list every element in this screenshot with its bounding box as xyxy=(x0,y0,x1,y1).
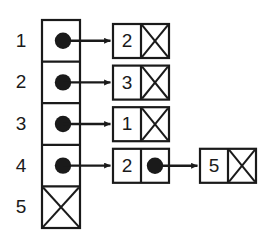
node-value-row4-0: 2 xyxy=(113,156,141,175)
index-label-4: 4 xyxy=(10,156,32,175)
node-value-row3-0: 1 xyxy=(113,114,141,133)
index-label-2: 2 xyxy=(10,72,32,91)
index-label-3: 3 xyxy=(10,114,32,133)
node-value-row4-1: 5 xyxy=(200,156,228,175)
node-value-row2-0: 3 xyxy=(113,73,141,92)
index-label-5: 5 xyxy=(10,197,32,216)
diagram-canvas: 1 2 3 4 5 2 3 1 2 5 xyxy=(0,0,273,239)
index-label-1: 1 xyxy=(10,31,32,50)
node-value-row1-0: 2 xyxy=(113,31,141,50)
